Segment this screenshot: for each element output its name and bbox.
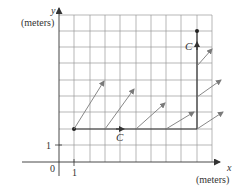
x-axis-label: x xyxy=(226,162,232,173)
y-axis-label: y xyxy=(50,5,56,16)
vector-arrow xyxy=(197,80,221,97)
origin-label: 0 xyxy=(50,163,55,174)
path-label-bottom: C xyxy=(116,131,124,143)
x-tick-label: 1 xyxy=(72,167,77,178)
path-label-right: C xyxy=(185,40,193,52)
grid xyxy=(59,15,212,162)
vector-field xyxy=(74,49,223,129)
vector-arrow xyxy=(197,49,212,66)
y-tick-label: 1 xyxy=(46,140,51,151)
vector-arrow xyxy=(197,112,223,129)
y-axis-unit: (meters) xyxy=(21,17,54,29)
vector-arrow xyxy=(136,103,165,129)
x-axis-unit: (meters) xyxy=(196,174,229,186)
vector-arrow xyxy=(166,112,194,129)
line-integral-diagram: y (meters) x (meters) 0 1 1 C C xyxy=(0,0,242,193)
path-end-dot xyxy=(195,29,199,33)
vector-arrow xyxy=(105,89,134,129)
vector-arrow xyxy=(74,81,104,129)
